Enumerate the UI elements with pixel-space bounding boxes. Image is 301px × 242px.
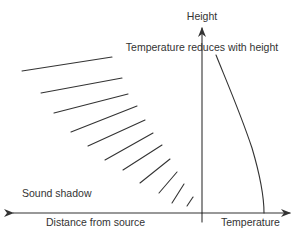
temperature-note-label: Temperature reduces with height xyxy=(126,41,278,53)
sound-shadow-diagram: Height Temperature reduces with height S… xyxy=(0,0,301,242)
sound-ray-line xyxy=(54,94,128,113)
sound-ray-line xyxy=(123,145,162,170)
sound-ray-line xyxy=(159,172,177,193)
sound-ray-line xyxy=(172,184,184,203)
sound-rays xyxy=(22,57,193,206)
height-axis-label: Height xyxy=(187,10,217,22)
temperature-axis-label: Temperature xyxy=(221,216,280,228)
temperature-profile-curve xyxy=(216,55,264,213)
sound-ray-line xyxy=(187,197,193,206)
sound-ray-line xyxy=(140,159,170,183)
sound-shadow-label: Sound shadow xyxy=(22,187,92,199)
sound-ray-line xyxy=(22,57,112,71)
sound-ray-line xyxy=(41,78,122,93)
distance-axis-label: Distance from source xyxy=(46,216,145,228)
